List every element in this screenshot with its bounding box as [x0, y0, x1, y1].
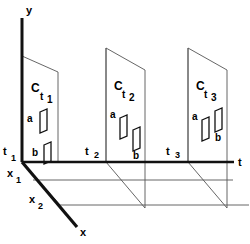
plane-2-object-b-shape — [133, 127, 140, 151]
plane-1-label: C — [31, 81, 40, 95]
depth-tick-x2-label: x — [29, 193, 36, 205]
time-tick-t3-label: t — [166, 145, 170, 157]
y-axis-label: y — [26, 4, 33, 16]
depth-tick-x2-sub: 2 — [38, 201, 43, 211]
time-tick-t1-sub: 1 — [11, 153, 16, 163]
plane-1-outline — [22, 56, 58, 162]
plane-3-object-a-shape — [202, 117, 209, 141]
depth-tick-x1: x 1 — [7, 167, 21, 185]
plane-1-object-a-shape — [40, 109, 47, 133]
plane-3-object-b-shape — [215, 108, 222, 132]
plane-1-object-b-label: b — [32, 147, 38, 158]
time-tick-t1-label: t — [3, 145, 7, 157]
depth-tick-x2: x 2 — [29, 193, 43, 211]
time-tick-t3: t 3 — [166, 145, 180, 160]
plane-2-object-a-shape — [120, 115, 127, 139]
time-tick-t2: t 2 — [85, 145, 99, 160]
plane-3-sub-n: 3 — [211, 92, 217, 103]
plane-2: C t 2 a b — [106, 48, 145, 208]
x-axis-label: x — [80, 226, 87, 238]
diagram-canvas: C t 1 a b C t 2 a b C — [0, 0, 250, 244]
t-axis-label: t — [238, 156, 242, 168]
plane-1-object-a-label: a — [27, 113, 33, 124]
plane-2-object-a-label: a — [110, 109, 116, 120]
depth-tick-x1-label: x — [7, 167, 14, 179]
plane-2-object-b-label: b — [133, 150, 139, 161]
time-tick-t3-sub: 3 — [175, 150, 180, 160]
time-tick-t1: t 1 — [3, 145, 16, 163]
plane-2-sub-n: 2 — [129, 92, 135, 103]
time-tick-t2-label: t — [85, 145, 89, 157]
plane-3-object-b-label: b — [215, 132, 221, 143]
depth-tick-x1-sub: 1 — [16, 175, 21, 185]
plane-1-sub-n: 1 — [47, 94, 53, 105]
plane-3-object-a-label: a — [192, 111, 198, 122]
plane-3: C t 3 a b — [188, 48, 227, 208]
time-tick-t2-sub: 2 — [94, 150, 99, 160]
